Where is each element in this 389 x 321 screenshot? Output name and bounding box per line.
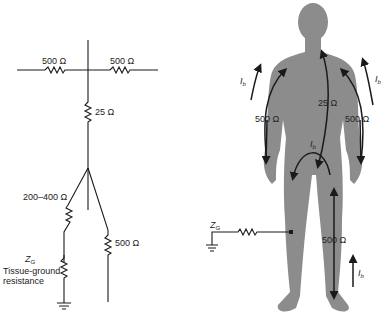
torso-resistor bbox=[85, 70, 91, 210]
torso-body-resistance-label: 25 Ω bbox=[318, 98, 338, 108]
right-arm-resistor bbox=[88, 67, 158, 73]
outer-left-current-arrow bbox=[251, 66, 260, 100]
left-leg-resistance-label: 200–400 Ω bbox=[23, 192, 68, 202]
body-ground-impedance-label: ZG bbox=[209, 220, 221, 231]
right-arm-body-resistance-label: 500 Ω bbox=[345, 114, 370, 124]
left-leg-resistor bbox=[64, 168, 88, 262]
ground-resistor bbox=[61, 255, 67, 303]
body-current-diagram: 500 Ω 500 Ω 25 Ω 200–400 Ω 500 Ω ZG Tiss… bbox=[0, 0, 389, 321]
left-arm-resistor bbox=[17, 67, 88, 73]
body-ground-resistor bbox=[212, 229, 291, 245]
tissue-ground-label-2: resistance bbox=[3, 276, 44, 286]
outer-leg-current-label: Ib bbox=[358, 268, 365, 279]
body-contact-point bbox=[289, 230, 293, 234]
left-arm-body-resistance-label: 500 Ω bbox=[255, 114, 280, 124]
body-ground-icon bbox=[206, 245, 218, 251]
right-leg-resistor bbox=[88, 168, 111, 302]
right-arm-resistance-label: 500 Ω bbox=[110, 56, 135, 66]
torso-resistance-label: 25 Ω bbox=[95, 107, 115, 117]
body-ground-connection bbox=[206, 229, 291, 251]
outer-left-current-label: Ib bbox=[240, 76, 247, 87]
ground-impedance-label: ZG bbox=[24, 254, 36, 265]
outer-right-current-label: Ib bbox=[375, 74, 382, 85]
human-body-silhouette bbox=[264, 3, 362, 312]
left-arm-resistance-label: 500 Ω bbox=[42, 56, 67, 66]
right-leg-resistance-label: 500 Ω bbox=[115, 238, 140, 248]
outer-right-current-arrow bbox=[363, 60, 373, 105]
ground-icon bbox=[57, 303, 71, 309]
leg-body-resistance-label: 500 Ω bbox=[322, 235, 347, 245]
tissue-ground-label-1: Tissue-ground bbox=[3, 266, 60, 276]
